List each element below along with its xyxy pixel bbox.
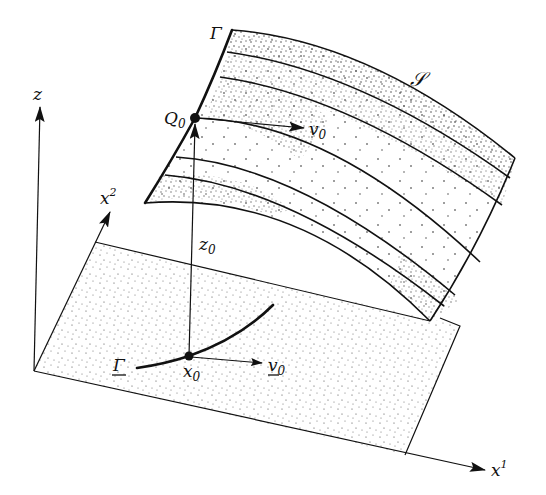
label-x1-axis: x1 xyxy=(491,458,508,480)
label-gamma-surface: Γ xyxy=(209,23,223,43)
label-surface-s: 𝒮 xyxy=(410,67,431,91)
label-gamma-plane: Γ xyxy=(112,355,126,375)
label-z-axis: z xyxy=(32,84,43,104)
point-x0 xyxy=(185,352,194,361)
label-x2-axis: x2 xyxy=(100,186,117,208)
z-axis xyxy=(34,107,40,371)
svg-text:Γ: Γ xyxy=(112,355,126,375)
figure-canvas: z x2 x1 Γ 𝒮 Q0 v0 z0 Γ x0 v0 xyxy=(0,0,546,495)
label-z0: z0 xyxy=(198,234,216,257)
label-q0: Q0 xyxy=(164,108,186,131)
